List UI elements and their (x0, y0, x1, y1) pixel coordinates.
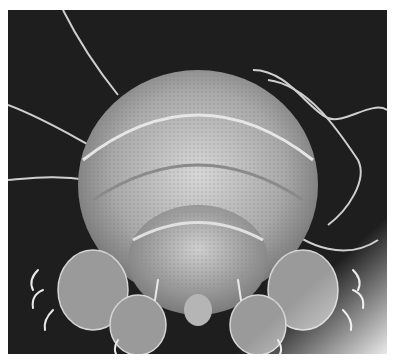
tardigrade-illustration (8, 10, 387, 354)
micrograph-image (8, 10, 387, 354)
